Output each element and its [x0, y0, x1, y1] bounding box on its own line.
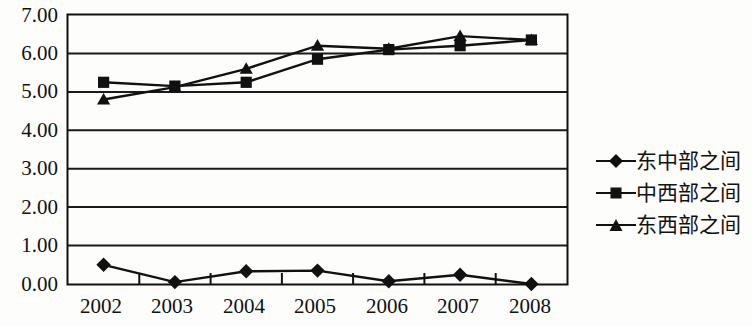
gridlines	[68, 53, 567, 245]
y-tick-label: 4.00	[2, 120, 58, 141]
legend-item-label: 东西部之间	[636, 214, 741, 236]
square-data-marker	[98, 77, 109, 88]
square-data-marker	[455, 40, 466, 51]
diamond-data-marker	[382, 274, 396, 288]
legend-item-dongzhongbu[interactable]: 东中部之间	[596, 148, 752, 174]
x-tick-label: 2004	[208, 296, 280, 317]
x-tick-label: 2008	[494, 296, 566, 317]
x-tick-label: 2003	[136, 296, 208, 317]
x-tick-label: 2002	[65, 296, 137, 317]
diamond-data-marker	[239, 264, 253, 278]
series-1	[96, 258, 538, 292]
chart-legend: 东中部之间 中西部之间 东西部之间	[596, 148, 752, 244]
diamond-data-marker	[310, 263, 324, 277]
x-tick-label: 2007	[422, 296, 494, 317]
legend-item-zhongxibu[interactable]: 中西部之间	[596, 180, 752, 206]
y-tick-label: 7.00	[2, 5, 58, 26]
y-tick-label: 6.00	[2, 43, 58, 64]
y-tick-label: 1.00	[2, 235, 58, 256]
legend-item-label: 东中部之间	[636, 150, 741, 172]
data-series-group	[96, 30, 538, 292]
square-marker-icon	[596, 183, 636, 203]
legend-item-label: 中西部之间	[636, 182, 741, 204]
series-3	[97, 30, 538, 105]
diamond-data-marker	[168, 275, 182, 289]
x-tick-label: 2006	[351, 296, 423, 317]
triangle-marker-icon	[596, 215, 636, 235]
y-tick-label: 0.00	[2, 274, 58, 295]
legend-item-dongxibu[interactable]: 东西部之间	[596, 212, 752, 238]
square-data-marker	[312, 54, 323, 65]
y-tick-label: 2.00	[2, 197, 58, 218]
diamond-marker-icon	[596, 151, 636, 171]
diamond-data-marker	[524, 277, 538, 291]
diamond-data-marker	[96, 258, 110, 272]
y-tick-label: 3.00	[2, 158, 58, 179]
square-data-marker	[241, 77, 252, 88]
x-tick-label: 2005	[279, 296, 351, 317]
y-tick-label: 5.00	[2, 81, 58, 102]
line-chart-figure: 7.00 6.00 5.00 4.00 3.00 2.00 1.00 0.00 …	[0, 0, 752, 326]
diamond-data-marker	[453, 268, 467, 282]
